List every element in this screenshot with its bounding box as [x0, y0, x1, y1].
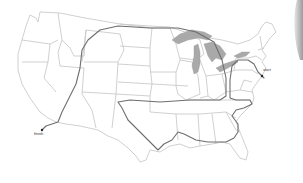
start-label: start: [263, 68, 271, 72]
lake-ontario: [234, 52, 250, 58]
great-lakes: [172, 30, 250, 74]
page-curl-shadow: [291, 0, 303, 60]
us-route-map: start finish: [0, 0, 303, 183]
map-canvas: [0, 0, 303, 183]
start-marker-icon: [261, 75, 263, 77]
state-borders: [22, 13, 264, 146]
route-path: [42, 26, 264, 150]
finish-label: finish: [34, 132, 43, 136]
lake-michigan: [192, 44, 200, 74]
